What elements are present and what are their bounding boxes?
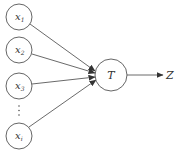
edge-x1-to-t	[30, 24, 95, 71]
input-node-xi: xi	[6, 123, 32, 149]
input-node-x1: x1	[6, 4, 32, 30]
unit-node-t: T	[95, 59, 127, 91]
output-label-z: Z	[165, 69, 174, 82]
neuron-diagram: x1 x2 x3 xi T Z	[0, 0, 176, 154]
edge-x2-to-t	[32, 54, 95, 73]
ellipsis-dots	[18, 105, 20, 116]
edge-xi-to-t	[29, 80, 96, 127]
input-node-x2: x2	[6, 37, 32, 63]
edge-x3-to-t	[32, 77, 95, 84]
input-node-x3: x3	[6, 73, 32, 99]
